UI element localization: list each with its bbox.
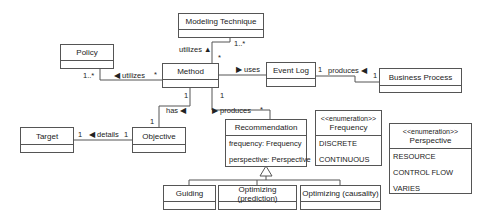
assoc-label-utilizes-modeling: utilizes ▲	[179, 45, 211, 54]
stereotype: <<enumeration>>	[403, 127, 458, 136]
class-name: Optimizing (causality)	[301, 186, 380, 202]
multiplicity: *	[260, 105, 263, 114]
class-modeling-technique[interactable]: Modeling Technique	[178, 13, 264, 38]
class-optimizing-prediction[interactable]: Optimizing (prediction)	[218, 185, 297, 210]
assoc-label-details: ◀ details	[89, 130, 119, 139]
enum-literal: CONTINUOUS	[316, 152, 381, 168]
class-method[interactable]: Method	[162, 63, 219, 88]
multiplicity: 1	[78, 130, 82, 139]
class-name: Modeling Technique	[179, 14, 263, 30]
assoc-label-produces-bp: produces ◀	[328, 66, 367, 75]
assoc-label-produces-rec: ▶ produces	[212, 106, 251, 115]
class-name: Business Process	[380, 69, 461, 86]
attribute-perspective: perspective: Perspective	[226, 152, 306, 168]
class-name: Policy	[61, 45, 113, 61]
assoc-label-has: has ◀	[166, 106, 186, 115]
multiplicity: *	[218, 53, 221, 62]
class-target[interactable]: Target	[20, 127, 74, 153]
class-business-process[interactable]: Business Process	[379, 68, 462, 93]
class-name: Target	[21, 128, 73, 145]
class-name: Recommendation	[226, 120, 306, 136]
class-name: Method	[163, 64, 218, 80]
class-optimizing-causality[interactable]: Optimizing (causality)	[300, 185, 381, 210]
class-event-log[interactable]: Event Log	[266, 62, 316, 87]
enum-literal: DISCRETE	[316, 136, 381, 152]
class-guiding[interactable]: Guiding	[163, 185, 216, 210]
multiplicity: 1	[373, 71, 377, 80]
class-name: Event Log	[267, 63, 315, 79]
multiplicity: 1	[150, 117, 154, 126]
class-recommendation[interactable]: Recommendation frequency: Frequency pers…	[225, 119, 307, 167]
enum-perspective[interactable]: <<enumeration>> Perspective RESOURCE CON…	[389, 123, 472, 194]
class-objective[interactable]: Objective	[132, 127, 186, 153]
multiplicity: 1..*	[234, 39, 245, 48]
enum-literal: VARIES	[390, 181, 471, 197]
enum-frequency[interactable]: <<enumeration>> Frequency DISCRETE CONTI…	[315, 110, 382, 166]
stereotype: <<enumeration>>	[321, 114, 376, 123]
enum-name: Frequency	[330, 123, 368, 132]
multiplicity: *	[154, 70, 157, 79]
multiplicity: 1	[318, 65, 322, 74]
multiplicity: 1	[220, 91, 224, 100]
enum-name: Perspective	[410, 136, 452, 145]
multiplicity: 1..*	[83, 71, 94, 80]
class-name: Guiding	[164, 186, 215, 202]
enum-literal: CONTROL FLOW	[390, 165, 471, 181]
assoc-label-uses: ▶ uses	[236, 65, 260, 74]
class-name: Optimizing (prediction)	[219, 186, 296, 202]
multiplicity: 1	[124, 130, 128, 139]
enum-literal: RESOURCE	[390, 149, 471, 165]
class-name: Objective	[133, 128, 185, 145]
assoc-label-utilizes-policy: ◀ utilizes	[114, 71, 145, 80]
class-policy[interactable]: Policy	[60, 44, 114, 69]
attribute-frequency: frequency: Frequency	[226, 136, 306, 152]
multiplicity: 1	[184, 91, 188, 100]
